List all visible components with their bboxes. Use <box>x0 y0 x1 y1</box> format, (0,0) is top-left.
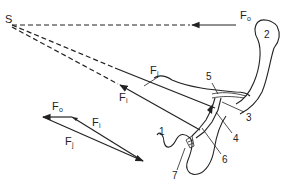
svg-text:j: j <box>71 141 74 149</box>
svg-text:o: o <box>247 15 251 22</box>
svg-text:F: F <box>240 9 247 21</box>
label-7: 7 <box>172 170 178 181</box>
label-1: 1 <box>159 126 165 137</box>
fj-line-of-action <box>12 25 115 68</box>
leader-7 <box>177 148 185 170</box>
svg-text:i: i <box>99 122 101 129</box>
fan-structure <box>186 136 194 148</box>
leader-5 <box>212 83 218 94</box>
triangle-fi <box>72 117 143 161</box>
bone-outer <box>240 20 279 114</box>
triangle-fj-label: F j <box>65 135 74 149</box>
tendon-right <box>196 98 221 138</box>
label-4: 4 <box>233 133 239 144</box>
triangle-fi-label: F i <box>92 116 101 129</box>
fi-line-of-action <box>12 27 118 84</box>
label-6: 6 <box>222 154 228 165</box>
fo-label: F o <box>240 9 251 22</box>
fi-arrow <box>120 85 200 130</box>
svg-text:F: F <box>92 116 99 128</box>
svg-text:o: o <box>59 106 63 113</box>
svg-text:F: F <box>119 91 126 103</box>
label-2: 2 <box>264 29 270 40</box>
point-s-label: S <box>5 13 12 25</box>
svg-text:i: i <box>126 97 128 104</box>
force-diagram: S F o F j F i 2 5 1 3 4 <box>0 0 289 183</box>
ridge-shelf-2 <box>212 97 244 99</box>
ridge-upper <box>154 76 250 96</box>
fi-label: F i <box>119 91 128 104</box>
triangle-fo-label: F o <box>52 100 63 113</box>
label-5: 5 <box>206 71 212 82</box>
svg-text:F: F <box>65 135 72 147</box>
svg-text:F: F <box>150 64 157 76</box>
label-3: 3 <box>246 112 252 123</box>
leader-3 <box>222 102 244 112</box>
svg-text:F: F <box>52 100 59 112</box>
